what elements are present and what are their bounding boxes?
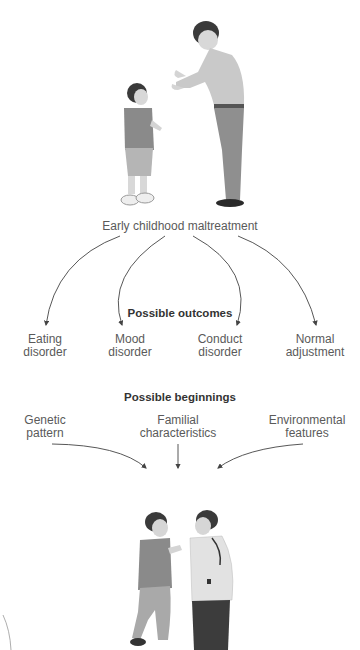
arrow-to-normal <box>238 236 316 325</box>
beginnings-heading: Possible beginnings <box>115 391 245 403</box>
arrow-to-eating <box>46 236 120 325</box>
margin-mark <box>3 615 11 650</box>
arrow-from-environmental <box>218 444 303 468</box>
arrow-from-genetic <box>52 444 146 468</box>
outcomes-heading: Possible outcomes <box>120 307 240 319</box>
arrows <box>0 0 360 650</box>
